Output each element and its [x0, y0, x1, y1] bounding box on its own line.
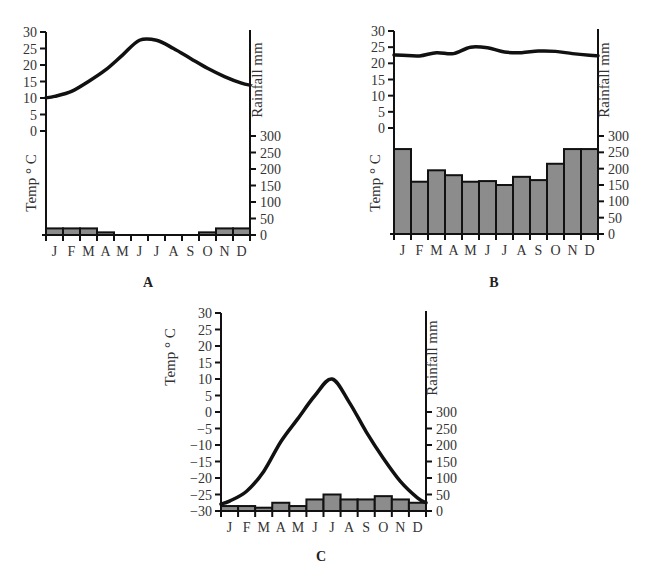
temp-tick-label: −20 — [190, 471, 212, 486]
rain-tick-label: 50 — [436, 488, 450, 503]
rain-tick-label: 200 — [436, 438, 457, 453]
rain-tick-label: 100 — [260, 195, 281, 210]
month-label: M — [82, 244, 95, 259]
rainfall-bar — [394, 149, 411, 234]
temp-tick-label: −10 — [190, 438, 212, 453]
month-label: J — [154, 244, 160, 259]
month-label: J — [227, 520, 233, 535]
rainfall-bar — [409, 503, 426, 511]
temp-tick-label: 30 — [198, 306, 212, 321]
temp-tick-label: −25 — [190, 488, 212, 503]
rainfall-bar — [306, 499, 323, 511]
rainfall-bar — [445, 175, 462, 234]
month-label: M — [464, 243, 477, 258]
rain-tick-label: 250 — [260, 146, 281, 161]
rainfall-bar — [341, 499, 358, 511]
temp-tick-label: 25 — [371, 40, 385, 55]
temp-tick-label: −5 — [197, 422, 212, 437]
temp-tick-label: 15 — [371, 73, 385, 88]
temp-tick-label: 15 — [198, 356, 212, 371]
temp-tick-label: 25 — [198, 323, 212, 338]
month-label: J — [485, 243, 491, 258]
month-label: J — [502, 243, 508, 258]
month-label: J — [312, 520, 318, 535]
temp-tick-label: 5 — [30, 108, 37, 123]
climate-chart-c: 302520151050−5−10−15−20−25−3030025020015… — [162, 306, 457, 564]
month-label: A — [344, 520, 355, 535]
temp-tick-label: 10 — [371, 89, 385, 104]
rain-tick-label: 200 — [608, 162, 629, 177]
rain-tick-label: 50 — [608, 211, 622, 226]
climate-chart-b: 302520151050300250200150100500JFMAMJJASO… — [367, 24, 629, 290]
rain-tick-label: 250 — [608, 145, 629, 160]
temp-tick-label: −30 — [190, 504, 212, 519]
rainfall-bars — [394, 149, 598, 234]
rainfall-bar — [375, 496, 392, 511]
rain-tick-label: 0 — [436, 504, 443, 519]
rain-tick-label: 100 — [608, 194, 629, 209]
month-label: M — [257, 520, 270, 535]
temp-tick-label: 0 — [30, 124, 37, 139]
climate-charts-canvas: 302520151050300250200150100500JFMAMJJASO… — [0, 0, 649, 566]
temperature-line — [46, 39, 250, 98]
month-label: J — [400, 243, 406, 258]
rainfall-bar — [462, 182, 479, 234]
rainfall-bar — [513, 177, 530, 234]
rainfall-bar — [547, 164, 564, 234]
month-label: J — [52, 244, 58, 259]
rain-tick-label: 0 — [608, 227, 615, 242]
month-label: M — [292, 520, 305, 535]
climate-chart-a: 302520151050300250200150100500JFMAMJJASO… — [23, 25, 281, 290]
rain-tick-label: 250 — [436, 422, 457, 437]
month-label: F — [416, 243, 424, 258]
panel-label: A — [143, 275, 154, 290]
temp-tick-label: −15 — [190, 455, 212, 470]
rainfall-bar — [358, 499, 375, 511]
month-label: S — [535, 243, 543, 258]
month-label: A — [168, 244, 179, 259]
month-label: D — [412, 520, 422, 535]
temp-tick-label: 20 — [371, 56, 385, 71]
month-label: M — [116, 244, 129, 259]
temp-tick-label: 10 — [23, 91, 37, 106]
temp-tick-label: 0 — [378, 121, 385, 136]
month-label: N — [395, 520, 405, 535]
rain-tick-label: 200 — [260, 162, 281, 177]
temp-tick-label: 20 — [23, 58, 37, 73]
month-label: S — [362, 520, 370, 535]
rainfall-bar — [581, 149, 598, 234]
rain-tick-label: 300 — [260, 129, 281, 144]
rain-tick-label: 100 — [436, 471, 457, 486]
rainfall-bar — [428, 170, 445, 234]
rain-tick-label: 0 — [260, 228, 267, 243]
month-label: A — [276, 520, 287, 535]
rainfall-axis-title: Rainfall mm — [424, 320, 440, 396]
temp-tick-label: 15 — [23, 75, 37, 90]
rain-tick-label: 150 — [436, 455, 457, 470]
rainfall-axis-title: Rainfall mm — [249, 42, 265, 118]
temp-axis-title: Temp ° C — [23, 154, 39, 211]
month-label: F — [243, 520, 251, 535]
rainfall-bar — [392, 499, 409, 511]
temp-tick-label: 30 — [371, 24, 385, 39]
temp-tick-label: 30 — [23, 25, 37, 40]
rainfall-bar — [496, 185, 513, 234]
rain-tick-label: 50 — [260, 212, 274, 227]
month-label: D — [584, 243, 594, 258]
temp-tick-label: 5 — [378, 105, 385, 120]
month-label: A — [448, 243, 459, 258]
month-label: S — [187, 244, 195, 259]
rainfall-bar — [411, 182, 428, 234]
temp-axis-title: Temp ° C — [162, 328, 178, 385]
rainfall-bar — [564, 149, 581, 234]
panel-label: C — [316, 549, 326, 564]
month-label: M — [430, 243, 443, 258]
month-label: A — [516, 243, 527, 258]
panel-label: B — [489, 275, 498, 290]
month-label: J — [137, 244, 143, 259]
temp-tick-label: 10 — [198, 372, 212, 387]
temperature-line — [394, 47, 598, 56]
month-label: N — [567, 243, 577, 258]
month-label: J — [329, 520, 335, 535]
rainfall-bar — [272, 503, 289, 511]
